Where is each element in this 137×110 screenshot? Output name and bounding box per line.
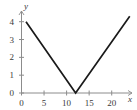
x-axis-label: x	[128, 95, 132, 104]
y-tick-label-2: 2	[2, 53, 14, 62]
y-tick-label-0: 0	[2, 89, 14, 98]
x-tick-label-10: 10	[62, 99, 71, 108]
chart-figure: y x 0 5 10 15 20 0 1 2 3 4	[0, 0, 137, 110]
y-tick-label-1: 1	[2, 71, 14, 80]
y-tick-label-3: 3	[2, 35, 14, 44]
plot-canvas	[0, 0, 137, 110]
y-axis-label: y	[24, 2, 28, 11]
x-tick-label-20: 20	[107, 99, 116, 108]
x-tick-label-0: 0	[19, 99, 24, 108]
x-tick-label-5: 5	[42, 99, 47, 108]
data-curve	[26, 16, 130, 93]
x-tick-label-15: 15	[85, 99, 94, 108]
y-tick-label-4: 4	[2, 17, 14, 26]
